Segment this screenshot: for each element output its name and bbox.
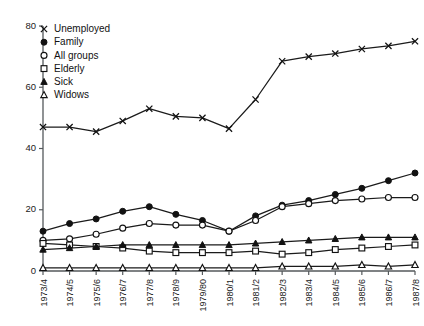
- legend-label: All groups: [54, 50, 98, 61]
- marker-filled-circle: [332, 191, 338, 197]
- x-tick-label: 1983/4: [304, 279, 314, 307]
- marker-open-square: [359, 245, 365, 251]
- marker-open-triangle: [173, 265, 179, 271]
- marker-open-circle: [306, 201, 312, 207]
- series-line: [43, 41, 415, 131]
- marker-open-circle: [41, 52, 47, 58]
- x-tick-label: 1984/5: [331, 279, 341, 307]
- x-tick-label: 1973/4: [39, 279, 49, 307]
- line-chart: 0204060801973/41974/51975/61976/71977/81…: [0, 0, 424, 326]
- legend: UnemployedFamilyAll groupsElderlySickWid…: [41, 23, 110, 100]
- marker-open-triangle: [40, 265, 46, 271]
- marker-filled-circle: [41, 39, 47, 45]
- marker-filled-circle: [359, 185, 365, 191]
- legend-label: Elderly: [54, 63, 85, 74]
- marker-open-square: [306, 250, 312, 256]
- marker-open-square: [226, 250, 232, 256]
- x-tick-label: 1974/5: [65, 279, 75, 307]
- x-tick-label: 1980/1: [225, 279, 235, 307]
- marker-open-square: [412, 242, 418, 248]
- marker-cross: [226, 125, 232, 131]
- y-tick-label: 40: [25, 142, 36, 153]
- marker-filled-circle: [385, 178, 391, 184]
- marker-open-circle: [93, 231, 99, 237]
- marker-open-square: [146, 248, 152, 254]
- x-tick-label: 1985/6: [357, 279, 367, 307]
- chart-canvas: 0204060801973/41974/51975/61976/71977/81…: [0, 0, 424, 326]
- marker-open-triangle: [306, 263, 312, 269]
- x-tick-label: 1978/9: [171, 279, 181, 307]
- x-tick-label: 1986/7: [384, 279, 394, 307]
- legend-label: Widows: [54, 89, 89, 100]
- marker-filled-triangle: [41, 78, 47, 84]
- marker-filled-circle: [120, 208, 126, 214]
- marker-open-square: [173, 250, 179, 256]
- marker-open-triangle: [199, 265, 205, 271]
- legend-label: Family: [54, 36, 83, 47]
- marker-open-triangle: [332, 263, 338, 269]
- marker-cross: [252, 96, 258, 102]
- legend-label: Sick: [54, 76, 74, 87]
- x-tick-label: 1975/6: [92, 279, 102, 307]
- marker-filled-circle: [40, 228, 46, 234]
- x-tick-label: 1987/8: [411, 279, 421, 307]
- y-tick-label: 60: [25, 81, 36, 92]
- marker-open-triangle: [252, 265, 258, 271]
- marker-filled-circle: [146, 204, 152, 210]
- y-tick-label: 0: [31, 265, 36, 276]
- marker-open-square: [332, 247, 338, 253]
- x-tick-label: 1979/80: [198, 279, 208, 312]
- marker-open-triangle: [359, 261, 365, 267]
- marker-open-square: [41, 66, 47, 72]
- marker-open-square: [386, 244, 392, 250]
- marker-open-circle: [279, 204, 285, 210]
- marker-open-triangle: [93, 265, 99, 271]
- marker-open-square: [253, 248, 259, 254]
- marker-open-circle: [173, 222, 179, 228]
- marker-open-circle: [385, 195, 391, 201]
- x-tick-label: 1976/7: [118, 279, 128, 307]
- marker-open-triangle: [412, 261, 418, 267]
- marker-filled-circle: [93, 216, 99, 222]
- marker-filled-circle: [67, 221, 73, 227]
- marker-open-circle: [226, 228, 232, 234]
- marker-open-square: [200, 250, 206, 256]
- marker-open-circle: [359, 196, 365, 202]
- marker-open-triangle: [120, 265, 126, 271]
- x-tick-label: 1981/2: [251, 279, 261, 307]
- series-widows: [40, 261, 418, 270]
- marker-open-triangle: [385, 263, 391, 269]
- marker-cross: [41, 26, 47, 32]
- marker-open-circle: [120, 225, 126, 231]
- marker-open-triangle: [226, 265, 232, 271]
- y-tick-label: 80: [25, 20, 36, 31]
- marker-open-triangle: [146, 265, 152, 271]
- marker-open-circle: [146, 221, 152, 227]
- marker-open-triangle: [66, 265, 72, 271]
- marker-open-square: [279, 251, 285, 257]
- legend-label: Unemployed: [54, 23, 110, 34]
- x-tick-label: 1977/8: [145, 279, 155, 307]
- marker-open-triangle: [279, 263, 285, 269]
- x-tick-label: 1982/3: [278, 279, 288, 307]
- marker-open-circle: [412, 195, 418, 201]
- marker-cross: [120, 118, 126, 124]
- y-tick-label: 20: [25, 203, 36, 214]
- marker-filled-circle: [412, 170, 418, 176]
- marker-open-circle: [253, 217, 259, 223]
- series-line: [43, 173, 415, 231]
- marker-open-circle: [67, 236, 73, 242]
- marker-open-triangle: [41, 92, 47, 98]
- marker-open-circle: [199, 222, 205, 228]
- marker-open-circle: [332, 198, 338, 204]
- marker-filled-circle: [173, 211, 179, 217]
